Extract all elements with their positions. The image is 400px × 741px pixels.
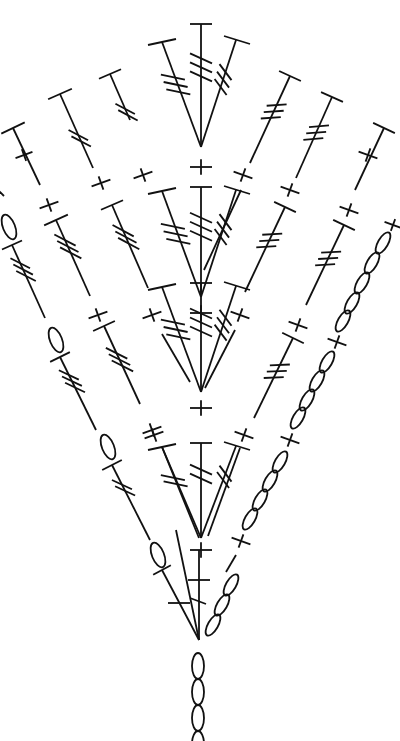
chain-stitch-icon: [240, 506, 261, 532]
treble-slash: [164, 231, 188, 236]
chain-stitch-icon: [203, 612, 224, 638]
treble-slash: [71, 136, 91, 146]
chain-stitch-icon: [148, 541, 169, 570]
treble-slash: [256, 246, 276, 247]
stitch-top-bar: [274, 202, 296, 212]
treble-slash: [166, 239, 190, 244]
double-crochet-stitch: [60, 357, 96, 430]
left-bottom-stem: [176, 530, 199, 640]
stitch-top-bar: [224, 36, 250, 44]
stitch-top-bar: [50, 352, 70, 362]
treble-slash: [106, 348, 127, 359]
stitch-top-bar: [93, 321, 115, 331]
double-crochet-stitch: [13, 128, 40, 185]
treble-slash: [264, 111, 284, 112]
stitch-top-bar: [1, 122, 24, 133]
chain-stitch-icon: [288, 405, 309, 431]
chain-stitch-icon: [192, 731, 204, 741]
slip-stitch-bar: [190, 598, 206, 604]
right-stem: [201, 446, 236, 538]
treble-slash: [259, 240, 279, 241]
stitch-top-bar: [321, 92, 343, 102]
double-crochet-stitch: [12, 245, 45, 318]
treble-slash: [60, 247, 81, 258]
chain-stitch-icon: [46, 326, 67, 355]
chain-stitch-icon: [333, 308, 354, 334]
crochet-chart: [0, 0, 400, 741]
stitch-top-bar: [102, 460, 122, 470]
crochet-diagram-canvas: [0, 0, 400, 741]
chain-stitch-icon: [0, 213, 19, 242]
treble-slash: [267, 104, 287, 105]
stitch-top-bar: [373, 123, 395, 133]
double-crochet-stitch: [245, 207, 285, 292]
double-crochet-stitch: [112, 205, 148, 288]
treble-slash: [315, 264, 335, 265]
treble-slash: [166, 89, 190, 94]
treble-slash: [267, 371, 287, 372]
chain-stitch-icon: [98, 433, 119, 462]
stitch-top-bar: [48, 89, 72, 100]
treble-slash: [54, 235, 75, 246]
treble-slash: [65, 383, 85, 392]
chain-stitch-icon: [192, 653, 204, 679]
treble-slash: [166, 334, 190, 339]
chain-stitch-icon: [212, 592, 233, 618]
treble-slash: [62, 377, 82, 386]
treble-slash: [69, 130, 89, 140]
right-stem: [201, 40, 236, 147]
treble-slash: [261, 117, 281, 118]
treble-slash: [118, 110, 137, 120]
double-crochet-stitch: [110, 74, 130, 120]
treble-slash: [306, 132, 326, 134]
stitch-top-bar: [224, 186, 250, 194]
chain-stitch-icon: [192, 705, 204, 731]
stitch-top-bar: [279, 71, 301, 81]
edge-stitch: [0, 190, 4, 196]
double-crochet-stitch: [60, 94, 93, 168]
treble-slash: [112, 480, 132, 489]
stitch-top-bar: [99, 69, 121, 79]
treble-slash: [13, 265, 33, 275]
right-stem: [201, 190, 236, 297]
double-crochet-stitch: [162, 447, 199, 538]
stitch-lines: [0, 24, 400, 741]
left-stem: [162, 191, 201, 297]
treble-slash: [161, 75, 185, 80]
double-crochet-stitch: [208, 448, 240, 536]
chain-stitch-icon: [221, 572, 242, 598]
treble-slash: [270, 365, 290, 366]
treble-slash: [318, 258, 338, 259]
treble-slash: [164, 327, 188, 332]
treble-slash: [303, 138, 323, 140]
double-crochet-stitch: [205, 330, 235, 388]
treble-slash: [264, 377, 284, 378]
double-crochet-stitch: [56, 220, 90, 296]
stitch-top-bar: [2, 240, 22, 249]
stitch-top-bar: [101, 200, 123, 210]
double-crochet-stitch: [355, 128, 384, 190]
double-crochet-stitch: [296, 97, 332, 178]
treble-slash: [57, 241, 78, 252]
treble-slash: [10, 258, 30, 268]
stitch-top-bar: [333, 220, 355, 230]
double-crochet-stitch: [162, 334, 190, 382]
treble-slash: [161, 224, 185, 229]
treble-slash: [115, 104, 134, 114]
double-crochet-stitch: [250, 76, 290, 163]
treble-slash: [16, 271, 36, 281]
treble-slash: [59, 370, 79, 379]
treble-slash: [109, 354, 130, 365]
treble-slash: [309, 125, 329, 127]
treble-slash: [115, 486, 135, 495]
stitch-top-bar: [224, 442, 250, 450]
left-stem: [162, 287, 201, 392]
double-crochet-stitch: [226, 555, 236, 572]
left-stem: [162, 42, 201, 147]
treble-slash: [321, 252, 341, 253]
chain-stitch-icon: [192, 679, 204, 705]
stitch-top-bar: [44, 215, 68, 226]
treble-slash: [112, 361, 133, 372]
treble-slash: [161, 320, 185, 325]
double-crochet-stitch: [112, 465, 150, 540]
